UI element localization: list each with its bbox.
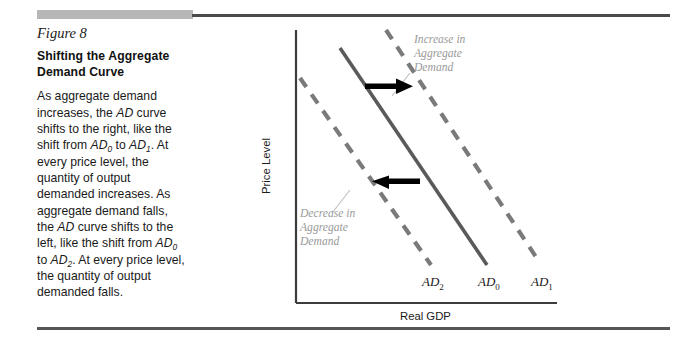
figure-title: Shifting the Aggregate Demand Curve [37,49,185,80]
ad0-text: AD [478,274,495,289]
figure-caption: Figure 8 Shifting the Aggregate Demand C… [37,26,185,301]
decrease-annotation: Decrease in Aggregate Demand [300,207,355,249]
bottom-divider-rule [37,327,670,330]
x-axis-label: Real GDP [400,310,451,322]
rightward-shift-arrow [365,79,413,95]
ad0-subscript: 0 [495,282,500,292]
ad2-subscript: 2 [439,282,444,292]
curve-label-ad0: AD0 [478,274,500,290]
increase-line1: Increase in [414,33,465,46]
ad2-text: AD [422,274,439,289]
increase-line2: Aggregate [414,47,462,60]
figure-number: Figure 8 [37,26,185,42]
curve-label-ad2: AD2 [422,274,444,290]
increase-annotation: Increase in Aggregate Demand [414,33,465,75]
figure-title-line2: Demand Curve [37,65,124,79]
decrease-line3: Demand [300,235,339,248]
ad1-text: AD [531,274,548,289]
decrease-line1: Decrease in [300,207,355,220]
figure-body-text: As aggregate demand increases, the AD cu… [37,88,185,300]
top-divider-rule [192,14,670,17]
leftward-shift-arrow [372,176,420,190]
curve-ad0 [340,48,487,265]
y-axis-label: Price Level [260,138,272,194]
ad1-subscript: 1 [548,282,553,292]
curve-label-ad1: AD1 [531,274,553,290]
header-gray-block [37,10,193,19]
decrease-line2: Aggregate [300,221,348,234]
figure-container: Figure 8 Shifting the Aggregate Demand C… [0,0,682,344]
figure-title-line1: Shifting the Aggregate [37,49,169,63]
increase-line3: Demand [414,61,453,74]
aggregate-demand-chart: Price Level Real GDP AD2 AD0 AD1 Increas… [270,18,670,318]
chart-svg [270,18,670,318]
